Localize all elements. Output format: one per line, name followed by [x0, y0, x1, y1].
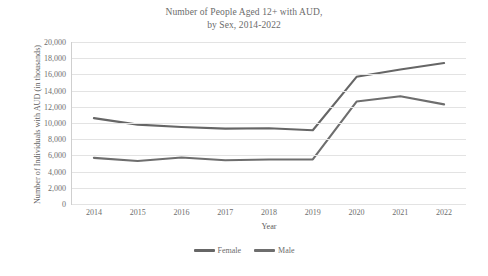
gridline-16000	[72, 74, 466, 75]
y-tick-label: 8,000	[22, 135, 66, 144]
x-axis-tick-labels: 201420152016201720182019202020212022	[72, 208, 466, 222]
gridline-6000	[72, 155, 466, 156]
y-tick-label: 4,000	[22, 167, 66, 176]
y-tick-label: 12,000	[22, 102, 66, 111]
legend-label-male: Male	[278, 246, 294, 255]
x-tick-label-2022: 2022	[424, 208, 464, 217]
y-tick-label: 20,000	[22, 38, 66, 47]
plot-area	[72, 42, 466, 204]
x-tick-label-2014: 2014	[74, 208, 114, 217]
line-chart: Number of People Aged 12+ with AUD, by S…	[0, 0, 488, 276]
x-tick-label-2018: 2018	[249, 208, 289, 217]
gridline-2000	[72, 188, 466, 189]
legend-item-female[interactable]: Female	[194, 246, 242, 255]
gridline-20000	[72, 42, 466, 43]
x-tick-label-2019: 2019	[293, 208, 333, 217]
y-tick-label: 0	[22, 200, 66, 209]
y-tick-label: 6,000	[22, 151, 66, 160]
gridline-18000	[72, 58, 466, 59]
y-tick-label: 2,000	[22, 183, 66, 192]
chart-title-line-2: by Sex, 2014-2022	[0, 19, 488, 32]
chart-legend: FemaleMale	[0, 246, 488, 255]
x-tick-label-2020: 2020	[337, 208, 377, 217]
gridline-12000	[72, 107, 466, 108]
x-tick-label-2015: 2015	[118, 208, 158, 217]
gridline-10000	[72, 123, 466, 124]
y-tick-label: 16,000	[22, 70, 66, 79]
x-tick-label-2021: 2021	[380, 208, 420, 217]
gridline-14000	[72, 91, 466, 92]
legend-swatch-male	[254, 249, 275, 251]
x-tick-label-2016: 2016	[161, 208, 201, 217]
gridline-8000	[72, 139, 466, 140]
x-tick-label-2017: 2017	[205, 208, 245, 217]
y-tick-label: 10,000	[22, 119, 66, 128]
chart-title-line-1: Number of People Aged 12+ with AUD,	[0, 6, 488, 19]
chart-title: Number of People Aged 12+ with AUD, by S…	[0, 6, 488, 31]
y-tick-label: 18,000	[22, 54, 66, 63]
x-axis-title: Year	[72, 222, 466, 231]
legend-item-male[interactable]: Male	[254, 246, 294, 255]
gridline-4000	[72, 172, 466, 173]
gridline-0	[72, 204, 466, 205]
y-axis-tick-labels: 02,0004,0006,0008,00010,00012,00014,0001…	[18, 42, 66, 204]
legend-swatch-female	[194, 249, 215, 251]
y-tick-label: 14,000	[22, 86, 66, 95]
legend-label-female: Female	[218, 246, 242, 255]
